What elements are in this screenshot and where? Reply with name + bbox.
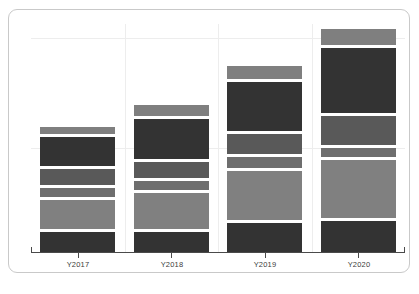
gridline-vertical (218, 24, 219, 252)
plot-area: Y2017Y2018Y2019Y2020 (31, 24, 405, 272)
bar-segment[interactable] (227, 223, 302, 252)
x-axis-tick-label: Y2017 (31, 260, 125, 269)
gridline-vertical (312, 24, 313, 252)
figure-caption (0, 283, 419, 294)
bar-stack[interactable] (227, 66, 302, 252)
bar-segment[interactable] (40, 200, 115, 229)
bar-stack[interactable] (134, 105, 209, 252)
x-axis-line (31, 252, 405, 253)
bar-segment[interactable] (134, 162, 209, 178)
gridline-vertical (125, 24, 126, 252)
bar-segment[interactable] (40, 127, 115, 134)
bar-segment[interactable] (227, 157, 302, 168)
bar-segment[interactable] (134, 232, 209, 252)
x-axis-end-tick (404, 247, 405, 252)
x-axis-tick (78, 253, 79, 258)
bar-segment[interactable] (321, 116, 396, 145)
bar-segment[interactable] (227, 134, 302, 154)
bar-segment[interactable] (321, 48, 396, 113)
x-axis-tick-label: Y2019 (218, 260, 312, 269)
bar-segment[interactable] (321, 221, 396, 252)
chart-figure: Y2017Y2018Y2019Y2020 (0, 0, 419, 294)
x-axis-end-tick (31, 247, 32, 252)
x-axis-tick (358, 253, 359, 258)
bar-segment[interactable] (40, 137, 115, 166)
bar-segment[interactable] (227, 171, 302, 220)
bar-segment[interactable] (134, 119, 209, 159)
bar-stack[interactable] (40, 127, 115, 252)
bar-stack[interactable] (321, 29, 396, 252)
bar-segment[interactable] (134, 181, 209, 190)
bar-segment[interactable] (134, 193, 209, 229)
x-axis-tick-label: Y2020 (312, 260, 406, 269)
x-axis-tick (171, 253, 172, 258)
chart-panel: Y2017Y2018Y2019Y2020 (8, 9, 410, 273)
bar-segment[interactable] (227, 82, 302, 131)
bar-segment[interactable] (40, 232, 115, 252)
bar-segment[interactable] (321, 160, 396, 218)
x-axis-tick-label: Y2018 (125, 260, 219, 269)
bar-segment[interactable] (321, 29, 396, 45)
bar-segment[interactable] (321, 148, 396, 157)
bar-segment[interactable] (40, 169, 115, 185)
bar-segment[interactable] (134, 105, 209, 116)
bar-segment[interactable] (40, 188, 115, 197)
x-axis-tick (265, 253, 266, 258)
bar-segment[interactable] (227, 66, 302, 79)
